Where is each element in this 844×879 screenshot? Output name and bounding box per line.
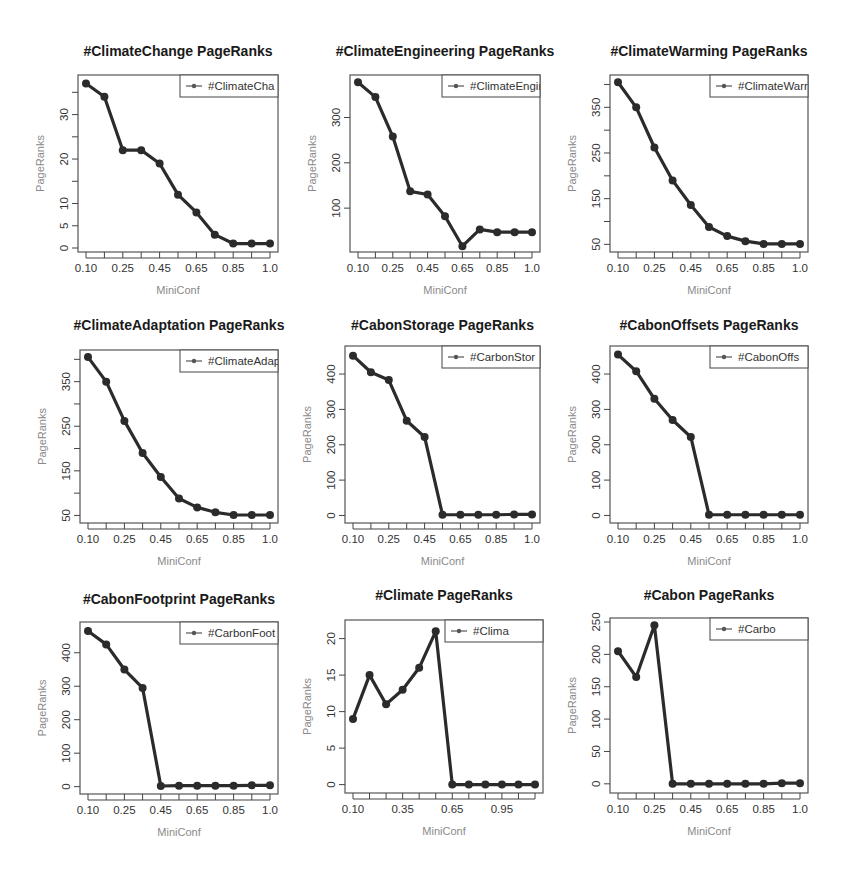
data-point bbox=[778, 779, 786, 787]
data-point bbox=[614, 647, 622, 655]
x-tick-label: 0.85 bbox=[752, 803, 774, 815]
y-axis: 050100150200250 bbox=[590, 612, 610, 787]
y-tick-label: 250 bbox=[590, 612, 602, 631]
x-axis-label: MiniConf bbox=[687, 825, 731, 837]
x-axis: 0.100.250.450.650.851.0 bbox=[607, 793, 808, 815]
data-point bbox=[741, 780, 749, 788]
x-tick-label: 0.45 bbox=[680, 803, 702, 815]
y-tick-label: 200 bbox=[590, 645, 602, 664]
data-line bbox=[618, 625, 800, 784]
legend: #Carbo bbox=[710, 618, 808, 640]
data-point bbox=[632, 673, 640, 681]
data-point bbox=[669, 780, 677, 788]
y-tick-label: 0 bbox=[590, 781, 602, 787]
x-tick-label: 0.25 bbox=[643, 803, 665, 815]
x-tick-label: 0.65 bbox=[716, 803, 738, 815]
data-point bbox=[705, 780, 713, 788]
data-point bbox=[687, 780, 695, 788]
y-tick-label: 150 bbox=[590, 677, 602, 696]
data-point bbox=[796, 779, 804, 787]
y-tick-label: 50 bbox=[590, 745, 602, 758]
data-point bbox=[723, 780, 731, 788]
chart-svg: #Cabon PageRanks0.100.250.450.650.851.00… bbox=[0, 0, 844, 879]
x-tick-label: 1.0 bbox=[792, 803, 808, 815]
legend-dot-icon bbox=[722, 627, 726, 631]
data-point bbox=[760, 780, 768, 788]
x-tick-label: 0.10 bbox=[607, 803, 629, 815]
y-tick-label: 100 bbox=[590, 709, 602, 728]
plot-frame bbox=[610, 618, 808, 793]
data-point bbox=[650, 621, 658, 629]
chart-title: #Cabon PageRanks bbox=[644, 587, 775, 603]
legend-label: #Carbo bbox=[738, 623, 776, 635]
y-axis-label: PageRanks bbox=[566, 677, 578, 734]
